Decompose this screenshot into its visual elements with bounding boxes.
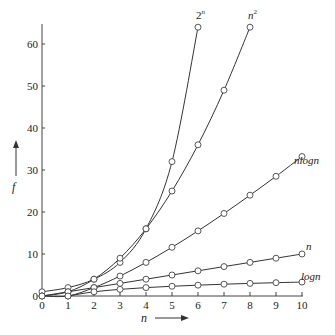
x-tick-label: 1 — [65, 299, 71, 311]
data-point — [221, 281, 227, 287]
data-point — [195, 268, 201, 274]
label-n: n — [306, 240, 312, 252]
arrow-right-icon — [181, 315, 189, 321]
x-tick-label: 0 — [39, 299, 45, 311]
y-tick-label: 30 — [27, 164, 39, 176]
data-point — [169, 283, 175, 289]
data-point — [247, 24, 253, 30]
data-point — [65, 293, 71, 299]
data-point — [195, 24, 201, 30]
data-point — [247, 192, 253, 198]
curve-labels: 2n n2 nlogn n logn — [196, 8, 321, 282]
data-point — [143, 276, 149, 282]
data-point — [117, 286, 123, 292]
data-point — [169, 159, 175, 165]
svg-text:n: n — [141, 311, 147, 325]
label-n2: n2 — [248, 8, 258, 21]
x-ticks: 012345678910 — [39, 292, 308, 311]
data-point — [221, 87, 227, 93]
growth-chart: 0102030405060 012345678910 2n n2 nlogn n… — [0, 0, 335, 335]
data-point — [143, 285, 149, 291]
x-tick-label: 8 — [247, 299, 253, 311]
x-tick-label: 10 — [297, 299, 309, 311]
data-point — [195, 282, 201, 288]
x-axis-label: n — [141, 311, 189, 325]
x-tick-label: 7 — [221, 299, 227, 311]
svg-text:f: f — [12, 180, 17, 194]
y-tick-label: 10 — [27, 248, 39, 260]
data-point — [39, 293, 45, 299]
label-2n: 2n — [196, 8, 206, 21]
label-logn: logn — [301, 270, 321, 282]
data-point — [195, 142, 201, 148]
data-point — [195, 228, 201, 234]
data-point — [273, 173, 279, 179]
data-point — [247, 280, 253, 286]
data-point — [91, 289, 97, 295]
data-point — [117, 255, 123, 261]
data-point — [169, 244, 175, 250]
series-group — [39, 24, 305, 299]
data-point — [117, 280, 123, 286]
y-tick-label: 20 — [27, 206, 39, 218]
data-point — [117, 273, 123, 279]
y-tick-label: 0 — [33, 290, 39, 302]
data-point — [273, 280, 279, 286]
arrow-up-icon — [13, 140, 19, 148]
data-point — [91, 276, 97, 282]
series-n2 — [39, 24, 253, 299]
y-tick-label: 60 — [27, 38, 39, 50]
data-point — [273, 255, 279, 261]
data-point — [143, 259, 149, 265]
series-2n — [39, 24, 201, 295]
data-point — [221, 210, 227, 216]
y-tick-label: 50 — [27, 80, 39, 92]
x-tick-label: 2 — [91, 299, 97, 311]
y-tick-label: 40 — [27, 122, 39, 134]
x-tick-label: 3 — [117, 299, 123, 311]
data-point — [299, 251, 305, 257]
label-nlogn: nlogn — [294, 154, 320, 166]
data-point — [247, 259, 253, 265]
x-tick-label: 5 — [169, 299, 175, 311]
series-n — [39, 251, 305, 299]
x-tick-label: 4 — [143, 299, 149, 311]
data-point — [143, 226, 149, 232]
data-point — [169, 188, 175, 194]
data-point — [169, 272, 175, 278]
x-tick-label: 6 — [195, 299, 201, 311]
x-tick-label: 9 — [273, 299, 279, 311]
y-axis-label: f — [12, 140, 19, 194]
data-point — [221, 264, 227, 270]
